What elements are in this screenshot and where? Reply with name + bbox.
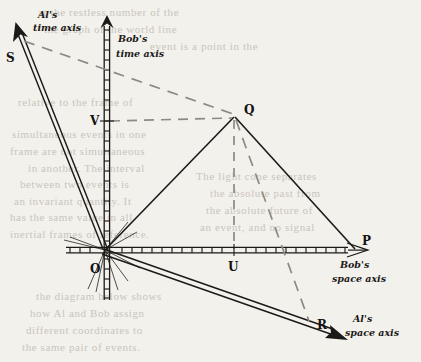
- point-label-s: S: [6, 51, 15, 65]
- al-time-axis-label: Al's time axis: [33, 9, 82, 33]
- event-triangle: [106, 117, 355, 249]
- al-time-axis-label-line1: Al's: [37, 9, 58, 20]
- point-label-q: Q: [244, 103, 254, 117]
- al-space-axis-label: Al's space axis: [345, 313, 400, 338]
- al-space-axis-label-line2: space axis: [345, 327, 400, 338]
- bob-space-axis-label: Bob's space axis: [332, 259, 387, 284]
- spacetime-diagram-figure: at the restless number of thethe graph o…: [0, 0, 421, 362]
- diagram-canvas: SVQOUPR Al's time axis Bob's time axis B…: [0, 0, 421, 362]
- segment-Q-P: [235, 117, 355, 249]
- point-label-group: SVQOUPR: [6, 51, 371, 332]
- al-time-axis: [13, 22, 108, 250]
- bob-time-axis-label-line1: Bob's: [117, 33, 148, 44]
- bob-space-axis-label-line1: Bob's: [339, 259, 370, 270]
- point-label-p: P: [362, 234, 371, 248]
- dashed-construction-lines: [24, 41, 309, 321]
- bob-space-axis: [66, 243, 368, 257]
- bob-time-axis-label: Bob's time axis: [116, 33, 165, 59]
- bob-time-axis-label-line2: time axis: [116, 48, 165, 59]
- point-label-r: R: [317, 318, 328, 332]
- point-label-v: V: [89, 114, 100, 128]
- point-label-u: U: [228, 260, 239, 274]
- al-space-axis: [102, 249, 348, 340]
- point-label-o: O: [90, 262, 100, 276]
- segment-O-Q: [106, 117, 234, 249]
- dashed-Q-R: [236, 120, 309, 321]
- dashed-V-Q: [110, 118, 232, 121]
- bob-space-axis-label-line2: space axis: [332, 273, 387, 284]
- al-space-axis-label-line1: Al's: [352, 313, 373, 324]
- al-time-axis-label-line2: time axis: [33, 22, 82, 33]
- axis-tick-marks: [100, 121, 234, 256]
